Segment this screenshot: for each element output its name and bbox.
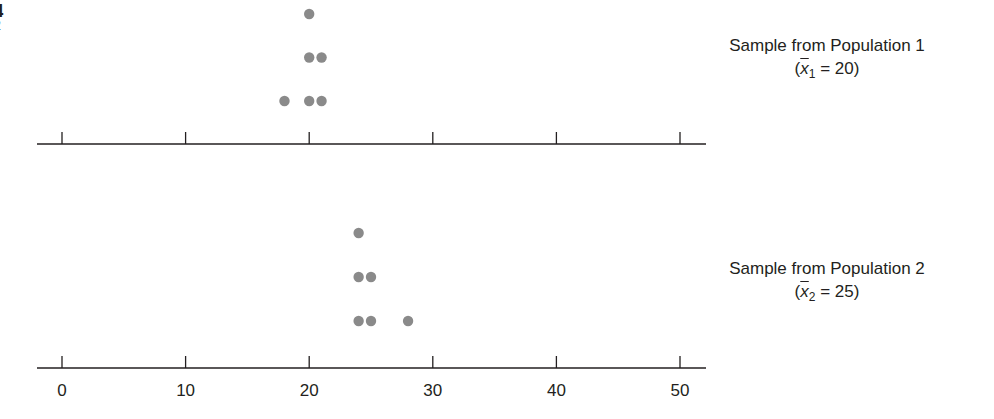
data-dot — [366, 316, 376, 326]
population-2-title: Sample from Population 2 — [729, 259, 925, 278]
data-dot — [353, 272, 363, 282]
data-dot — [304, 96, 314, 106]
data-dot — [304, 52, 314, 62]
data-dot — [316, 52, 326, 62]
data-dot — [353, 316, 363, 326]
data-dot — [353, 228, 363, 238]
x-tick-label: 20 — [300, 381, 319, 400]
x-tick-label: 40 — [547, 381, 566, 400]
x-tick-label: 0 — [57, 381, 66, 400]
population-2-label: Sample from Population 2 (x2 = 25) — [697, 257, 957, 309]
population-1-label: Sample from Population 1 (x1 = 20) — [697, 34, 957, 86]
data-dot — [316, 96, 326, 106]
population-1-title: Sample from Population 1 — [729, 36, 925, 55]
population-2-mean: (x2 = 25) — [697, 280, 957, 309]
x-tick-label: 10 — [176, 381, 195, 400]
data-dot — [279, 96, 289, 106]
x-tick-label: 30 — [423, 381, 442, 400]
data-dot — [403, 316, 413, 326]
data-dot — [304, 9, 314, 19]
data-dot — [366, 272, 376, 282]
population-1-mean: (x1 = 20) — [697, 57, 957, 86]
x-tick-label: 50 — [671, 381, 690, 400]
